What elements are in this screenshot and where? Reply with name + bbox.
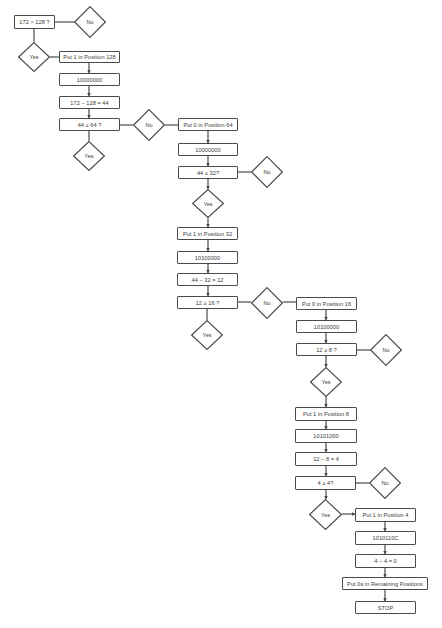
decision-yes: Yes: [310, 367, 342, 397]
step-fill-remaining-zeros: Put 0s in Remaining Positions: [342, 577, 428, 590]
comparison-box-12-ge-16: 12 ≥ 16 ?: [177, 296, 238, 309]
decision-box-172-gt-128: 172 > 128 ?: [14, 15, 55, 29]
decision-label: No: [74, 6, 106, 38]
decision-label: No: [251, 156, 283, 188]
decision-yes: Yes: [73, 141, 105, 171]
stop-box: STOP: [355, 601, 416, 614]
decision-label: No: [370, 334, 402, 366]
step-put-1-position-32: Put 1 in Position 32: [177, 227, 238, 240]
comparison-box-12-ge-8: 12 ≥ 8 ?: [296, 343, 357, 356]
decision-label: Yes: [73, 141, 105, 171]
decision-label: Yes: [18, 42, 50, 72]
decision-no: No: [251, 287, 283, 319]
comparison-box-4-ge-4: 4 ≥ 4?: [295, 476, 356, 490]
decision-label: No: [133, 109, 165, 141]
decision-yes: Yes: [18, 42, 50, 72]
decision-label: No: [251, 287, 283, 319]
decision-yes: Yes: [191, 320, 223, 350]
decision-label: Yes: [310, 367, 342, 397]
binary-value-box: 10100000: [296, 320, 357, 333]
decision-no: No: [370, 334, 402, 366]
step-put-1-position-8: Put 1 in Position 8: [295, 407, 357, 421]
decision-no: No: [74, 6, 106, 38]
subtraction-box: 44 − 32 = 12: [177, 273, 238, 286]
step-put-0-position-64: Put 0 in Position 64: [178, 118, 238, 131]
decision-no: No: [133, 109, 165, 141]
flowchart-canvas: 172 > 128 ? Put 1 in Position 128 100000…: [0, 0, 442, 628]
binary-value-box: 10100000: [177, 251, 238, 264]
binary-value-box: 10101000: [295, 429, 357, 443]
comparison-box-44-ge-32: 44 ≥ 32?: [178, 166, 238, 179]
decision-label: Yes: [309, 499, 342, 530]
subtraction-box: 12 − 8 = 4: [295, 452, 357, 466]
subtraction-box: 4 − 4 = 0: [355, 554, 416, 568]
decision-no: No: [369, 467, 401, 499]
decision-yes: Yes: [309, 499, 342, 530]
step-put-1-position-128: Put 1 in Position 128: [59, 51, 120, 63]
decision-label: Yes: [192, 189, 224, 218]
step-put-0-position-16: Put 0 in Position 16: [296, 297, 357, 310]
decision-label: No: [369, 467, 401, 499]
decision-label: Yes: [191, 320, 223, 350]
binary-value-box: 10000000: [178, 143, 238, 156]
subtraction-box: 172 − 128 = 44: [59, 96, 120, 109]
binary-value-box: 1010110C: [355, 531, 416, 545]
comparison-box-44-ge-64: 44 ≥ 64 ?: [59, 118, 120, 131]
decision-yes: Yes: [192, 189, 224, 218]
binary-value-box: 10000000: [59, 73, 120, 86]
step-put-1-position-4: Put 1 in Position 4: [355, 508, 416, 522]
decision-no: No: [251, 156, 283, 188]
